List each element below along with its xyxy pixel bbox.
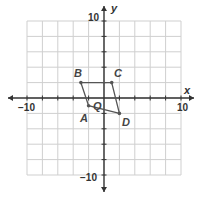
y-min-tick-label: −10: [80, 173, 97, 183]
point-label-q: Q: [93, 101, 102, 112]
vertex-label-b: B: [74, 68, 82, 79]
y-axis-label: y: [111, 3, 117, 14]
x-max-tick-label: 10: [177, 103, 188, 113]
vertex-label-a: A: [80, 113, 88, 124]
vertex-label-d: D: [122, 117, 130, 128]
y-max-tick-label: 10: [88, 13, 99, 23]
vertex-label-c: C: [114, 68, 122, 79]
x-axis-label: x: [184, 85, 190, 96]
x-min-tick-label: −10: [18, 103, 35, 113]
